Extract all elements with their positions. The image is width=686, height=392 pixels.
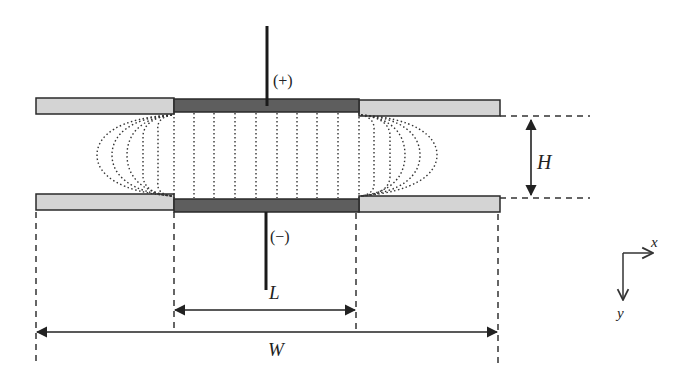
bottom-insulator-right <box>359 196 500 212</box>
x-axis-label: x <box>650 234 658 250</box>
field-lines-fringe-right <box>361 115 437 196</box>
length-label: L <box>268 282 280 303</box>
field-lines-fringe-left <box>97 115 172 196</box>
height-label: H <box>536 151 553 173</box>
bottom-plate <box>36 194 500 212</box>
field-lines-uniform <box>174 113 359 198</box>
top-insulator-right <box>359 100 500 116</box>
bottom-insulator-left <box>36 194 174 210</box>
width-label: W <box>268 339 286 360</box>
bottom-electrode <box>174 199 359 212</box>
y-axis-label: y <box>615 305 624 321</box>
positive-terminal-label: (+) <box>273 72 293 90</box>
dimension-guides <box>36 116 590 366</box>
top-insulator-left <box>36 98 174 114</box>
axis-indicator <box>623 253 653 300</box>
negative-terminal-label: (−) <box>270 228 290 246</box>
electrode-diagram: (+) (−) H L W x y <box>0 0 686 392</box>
